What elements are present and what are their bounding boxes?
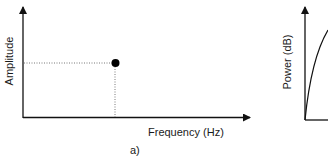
x-label-frequency: Frequency (Hz) xyxy=(148,126,224,138)
panel-b: Power (dB) xyxy=(281,7,328,120)
y-label-power: Power (dB) xyxy=(281,34,293,89)
panel-a: Amplitude Frequency (Hz) a) xyxy=(3,7,250,156)
y-label-amplitude: Amplitude xyxy=(3,37,15,86)
panel-label-a: a) xyxy=(130,144,140,156)
figure: Amplitude Frequency (Hz) a) Power (dB) xyxy=(0,0,328,160)
data-point xyxy=(112,59,120,67)
power-curve xyxy=(305,30,328,120)
